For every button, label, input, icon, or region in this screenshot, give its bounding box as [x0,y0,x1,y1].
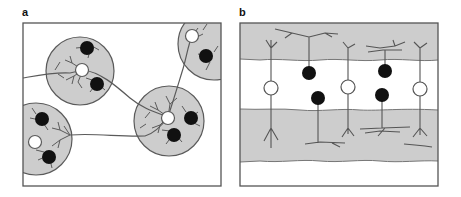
white-cell [186,30,199,43]
dark-cell [375,88,389,102]
dark-cell [199,49,213,63]
white-cell [413,82,427,96]
panel-b [240,23,438,186]
dark-cell [35,112,49,126]
dark-cell [378,64,392,78]
dark-cell [167,128,181,142]
gray-layer-top [240,23,438,61]
dark-cell [80,41,94,55]
dark-cell [311,91,325,105]
figure-canvas [0,0,461,197]
dark-cell [90,77,104,91]
white-cell [76,64,89,77]
white-cell [341,80,355,94]
dark-cell [302,66,316,80]
dark-cell [42,150,56,164]
white-cell [162,112,175,125]
white-cell [29,136,42,149]
dark-cell [184,111,198,125]
gray-layer-middle [240,109,438,162]
panel-a [0,8,250,186]
white-cell [264,81,278,95]
